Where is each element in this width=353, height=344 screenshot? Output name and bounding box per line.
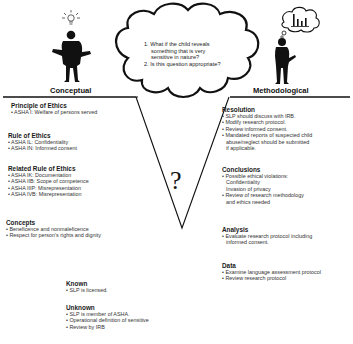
bar-chart-thought-icon [281,7,319,38]
section-item: • ASHA IIB: Scope of competence [8,178,89,184]
section-unknown: Unknown • SLP is member of ASHA. • Opera… [66,304,149,330]
section-item: • Operational definition of sensitive [66,317,149,323]
section-title: Known [66,280,108,287]
section-title: Resolution [222,106,312,113]
section-principle-of-ethics: Principle of Ethics • ASHA I: Welfare of… [11,102,97,115]
section-item: • Review by IRB [66,324,149,330]
question-mark-symbol: ? [170,166,182,196]
section-item: • Review research protocol [222,275,321,281]
section-title: Rule of Ethics [8,132,77,139]
section-known: Known • SLP is licensed. [66,280,108,293]
section-resolution: Resolution • SLP should discuss with IRB… [222,106,312,151]
section-concepts: Concepts • Beneficence and nonmaleficenc… [6,219,101,239]
section-item: • Respect for person's rights and dignit… [6,232,101,238]
section-conclusions: Conclusions • Possible ethical violation… [222,166,304,205]
section-title: Related Rule of Ethics [8,165,89,172]
section-title: Unknown [66,304,149,311]
section-title: Principle of Ethics [11,102,97,109]
cloud-question-line: 2. Is this question appropriate? [144,61,221,68]
section-item: • ASHA IVB: Misrepresentation [8,191,89,197]
section-item: • Review of research methodology [222,192,304,198]
funnel-outline [136,97,229,228]
section-item: • ASHA I: Welfare of persons served [11,109,97,115]
section-item: if applicable. [222,145,312,151]
cloud-questions: 1. What if the child reveals something t… [144,41,221,67]
cloud-question-line: 1. What if the child reveals [144,41,221,48]
section-analysis: Analysis • Evaluate research protocol in… [222,226,312,246]
cloud-question-line: something that is very [144,48,221,55]
section-item: • SLP is licensed. [66,287,108,293]
section-title: Concepts [6,219,101,226]
conceptual-person-figure [52,31,91,82]
section-item: • Mandated reports of suspected child [222,132,312,138]
section-item: informed consent. [222,239,312,245]
section-title: Analysis [222,226,312,233]
methodological-person-figure [275,38,296,84]
section-data: Data • Examine language assessment proto… [222,262,321,282]
methodological-label: Methodological [253,86,309,95]
section-rule-of-ethics: Rule of Ethics • ASHA IL: Confidentialit… [8,132,77,152]
section-related-rule-of-ethics: Related Rule of Ethics • ASHA IK: Docume… [8,165,89,198]
conceptual-label: Conceptual [50,86,91,95]
section-item: and ethics needed [222,199,304,205]
section-title: Conclusions [222,166,304,173]
lightbulb-icon [62,10,80,24]
section-title: Data [222,262,321,269]
cloud-question-line: sensitive in nature? [144,54,221,61]
section-item: • ASHA IN: Informed consent [8,145,77,151]
